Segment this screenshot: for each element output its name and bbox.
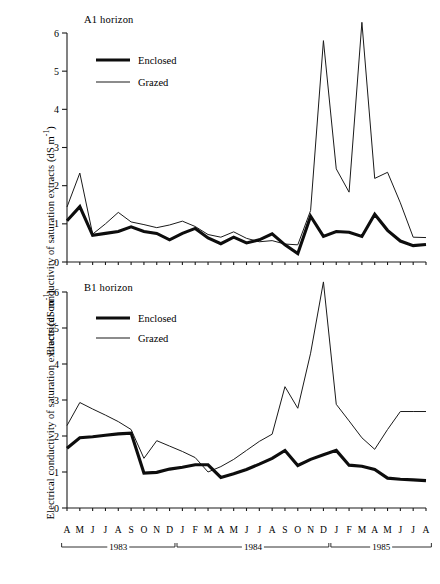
x-axis-month-label: J	[181, 525, 185, 535]
y-axis-label-paren: )	[45, 126, 56, 130]
x-axis-month-label: J	[91, 525, 95, 535]
x-axis-months-and-years: AMJJASONDJFMAMJJASONDJFMAMJJA 1983198419…	[0, 519, 440, 579]
plot-area-b1: 0123456 Enclosed Grazed	[0, 280, 440, 525]
panel-title-a1: A1 horizon	[84, 14, 134, 25]
x-axis-month-label: N	[307, 525, 314, 535]
legend-label-grazed: Grazed	[138, 77, 169, 88]
legend-label-enclosed: Enclosed	[138, 55, 177, 66]
y-axis-label-exponent: -1	[42, 294, 51, 300]
x-axis-month-label: F	[193, 525, 198, 535]
y-axis-label-b1: Electrical conductivity of saturation ex…	[42, 270, 56, 540]
x-axis-month-label: J	[245, 525, 249, 535]
y-axis-label-exponent: -1	[42, 130, 51, 136]
x-axis-month-label: M	[204, 525, 213, 535]
x-axis-month-label: A	[371, 525, 378, 535]
year-label: 1984	[244, 542, 263, 552]
series-group-a1	[67, 22, 426, 253]
x-axis-month-label: M	[358, 525, 367, 535]
series-line-grazed	[67, 22, 426, 245]
chart-panel-b1: B1 horizon Electrical conductivity of sa…	[0, 280, 440, 525]
x-axis-month-labels: AMJJASONDJFMAMJJASONDJFMAMJJA	[64, 525, 430, 535]
x-axis-month-label: J	[257, 525, 261, 535]
series-group-b1	[67, 282, 426, 481]
x-axis-month-label: M	[383, 525, 392, 535]
x-axis-month-label: A	[115, 525, 122, 535]
series-line-enclosed	[67, 433, 426, 481]
x-axis-month-label: S	[128, 525, 133, 535]
year-label: 1985	[372, 542, 391, 552]
x-axis-month-label: J	[104, 525, 108, 535]
x-axis-month-label: M	[76, 525, 85, 535]
y-axis-tick-label: 6	[54, 28, 59, 39]
x-axis-month-label: J	[334, 525, 338, 535]
x-axis-month-label: A	[423, 525, 430, 535]
x-axis-month-label: D	[320, 525, 327, 535]
legend-b1: Enclosed Grazed	[96, 313, 177, 344]
y-axis-tick-label: 5	[54, 66, 59, 77]
x-axis-month-label: A	[269, 525, 276, 535]
x-axis-year-brackets: 198319841985	[62, 542, 432, 552]
x-axis-month-label: M	[229, 525, 238, 535]
x-axis-month-label: S	[282, 525, 287, 535]
legend-a1: Enclosed Grazed	[96, 55, 177, 88]
y-axis-label-paren: )	[45, 290, 56, 294]
plot-area-a1: 0123456 Enclosed Grazed	[0, 0, 440, 280]
x-axis-month-label: D	[166, 525, 173, 535]
figure-container: A1 horizon Electrical conductivity of sa…	[0, 0, 440, 584]
year-label: 1983	[109, 542, 128, 552]
chart-panel-a1: A1 horizon Electrical conductivity of sa…	[0, 0, 440, 280]
axis-group-b1: 0123456	[54, 287, 426, 514]
y-axis-label-text: Electrical conductivity of saturation ex…	[45, 300, 56, 519]
x-axis-month-label: J	[411, 525, 415, 535]
x-axis-month-label: N	[153, 525, 160, 535]
x-axis-month-label: F	[346, 525, 351, 535]
x-axis-month-label: O	[140, 525, 147, 535]
legend-label-grazed: Grazed	[138, 333, 169, 344]
series-line-grazed	[67, 282, 426, 472]
legend-label-enclosed: Enclosed	[138, 313, 177, 324]
panel-title-b1: B1 horizon	[84, 282, 133, 293]
x-axis-month-label: J	[399, 525, 403, 535]
x-axis-month-label: A	[64, 525, 71, 535]
x-axis-month-label: A	[217, 525, 224, 535]
x-axis-month-label: O	[294, 525, 301, 535]
